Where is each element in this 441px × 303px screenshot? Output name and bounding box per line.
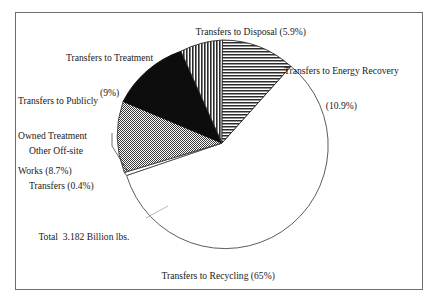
pie-label-other-offsite: Other Off-site Transfers (0.4%) [29, 122, 94, 215]
chart-total-text: Total 3.182 Billion lbs. [38, 231, 129, 242]
pie-label-recycling: Transfers to Recycling (65%) [152, 258, 275, 293]
pie-label-other-offsite-line2: Transfers (0.4%) [29, 180, 94, 192]
chart-total-label: Total 3.182 Billion lbs. [29, 219, 129, 254]
pie-label-recycling-line1: Transfers to Recycling (65%) [161, 270, 274, 281]
figure-root: Transfers to Disposal (5.9%) Transfers t… [0, 0, 441, 303]
pie-label-energy-recovery-line2: (10.9%) [284, 100, 399, 112]
pie-label-other-offsite-line1: Other Off-site [29, 145, 94, 157]
pie-label-energy-recovery: Transfers to Energy Recovery (10.9%) [284, 42, 399, 135]
pie-label-energy-recovery-line1: Transfers to Energy Recovery [284, 65, 399, 77]
pie-label-potw-line1: Transfers to Publicly [18, 95, 98, 107]
pie-label-treatment-line1: Transfers to Treatment [66, 52, 153, 64]
pie-label-disposal-line1: Transfers to Disposal (5.9%) [195, 26, 306, 37]
